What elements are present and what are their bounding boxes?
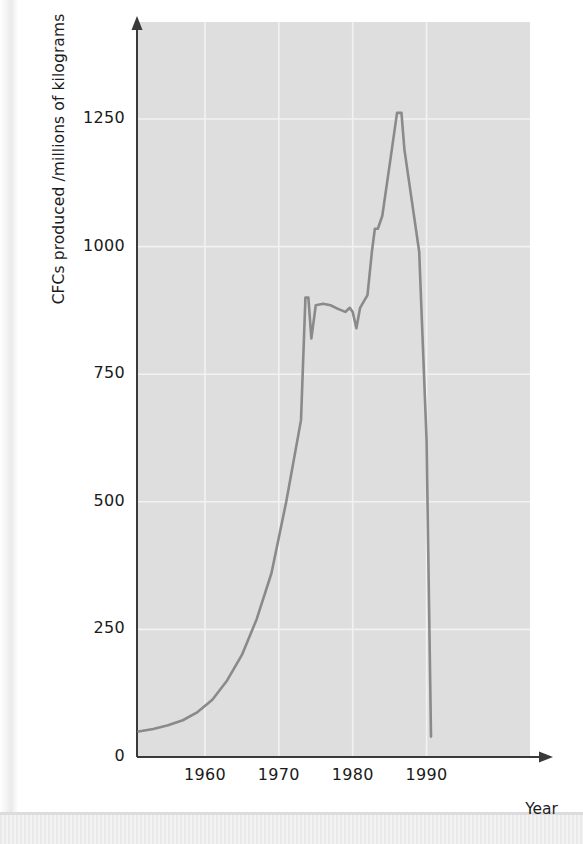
y-tick-label: 0 xyxy=(55,746,125,765)
figure-container: CFCs produced /millions of kilograms 025… xyxy=(0,0,583,844)
y-tick-label: 750 xyxy=(55,363,125,382)
x-tick-label: 1960 xyxy=(165,765,245,784)
y-axis-label: CFCs produced /millions of kilograms xyxy=(50,4,68,314)
y-tick-label: 250 xyxy=(55,618,125,637)
x-tick-label: 1970 xyxy=(239,765,319,784)
x-tick-label: 1980 xyxy=(313,765,393,784)
x-axis-label: Year xyxy=(525,800,558,818)
x-tick-label: 1990 xyxy=(387,765,467,784)
plot-area-background xyxy=(137,22,530,757)
y-tick-label: 1250 xyxy=(55,108,125,127)
y-tick-label: 500 xyxy=(55,491,125,510)
x-axis-arrowhead xyxy=(539,752,553,763)
y-tick-label: 1000 xyxy=(55,236,125,255)
